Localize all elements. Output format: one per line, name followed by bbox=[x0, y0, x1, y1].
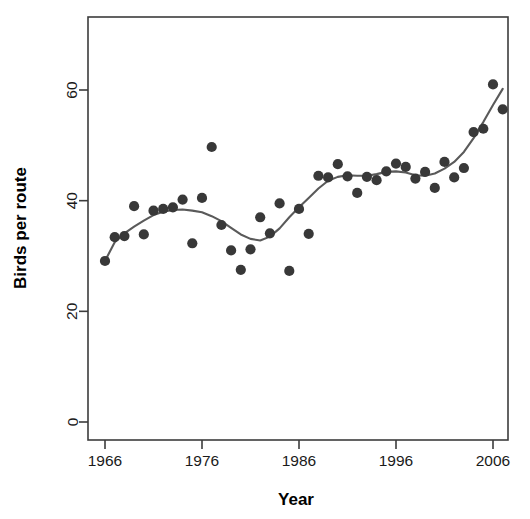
data-point bbox=[139, 229, 149, 239]
data-point bbox=[439, 157, 449, 167]
data-point bbox=[294, 204, 304, 214]
data-point bbox=[304, 229, 314, 239]
data-point bbox=[178, 194, 188, 204]
x-tick-label: 2006 bbox=[476, 452, 510, 469]
x-tick-label: 1966 bbox=[88, 452, 122, 469]
data-point bbox=[372, 175, 382, 185]
data-point bbox=[226, 245, 236, 255]
data-point bbox=[275, 198, 285, 208]
x-tick-label: 1986 bbox=[282, 452, 316, 469]
chart-container: 0204060 19661976198619962006 Birds per r… bbox=[0, 0, 530, 519]
y-tick-label: 60 bbox=[64, 81, 81, 99]
data-point bbox=[313, 171, 323, 181]
x-axis-title: Year bbox=[278, 490, 314, 509]
data-point bbox=[352, 188, 362, 198]
data-point bbox=[342, 171, 352, 181]
plot-background bbox=[0, 0, 530, 519]
data-point bbox=[187, 238, 197, 248]
data-point bbox=[469, 127, 479, 137]
data-point bbox=[129, 201, 139, 211]
data-point bbox=[478, 124, 488, 134]
y-tick-label: 20 bbox=[64, 302, 81, 320]
x-tick-label: 1976 bbox=[185, 452, 219, 469]
data-point bbox=[110, 232, 120, 242]
data-point bbox=[265, 228, 275, 238]
data-point bbox=[362, 172, 372, 182]
data-point bbox=[236, 265, 246, 275]
data-point bbox=[420, 167, 430, 177]
data-point bbox=[119, 231, 129, 241]
data-point bbox=[245, 244, 255, 254]
data-point bbox=[488, 79, 498, 89]
data-point bbox=[333, 159, 343, 169]
data-point bbox=[323, 172, 333, 182]
y-tick-label: 40 bbox=[64, 192, 81, 210]
x-tick-label: 1996 bbox=[379, 452, 413, 469]
data-point bbox=[498, 104, 508, 114]
data-point bbox=[207, 142, 217, 152]
data-point bbox=[168, 202, 178, 212]
data-point bbox=[148, 206, 158, 216]
data-point bbox=[381, 166, 391, 176]
data-point bbox=[216, 220, 226, 230]
data-point bbox=[449, 172, 459, 182]
y-axis-title: Birds per route bbox=[11, 167, 30, 289]
data-point bbox=[391, 158, 401, 168]
data-point bbox=[430, 183, 440, 193]
data-point bbox=[158, 204, 168, 214]
data-point bbox=[410, 173, 420, 183]
data-point bbox=[100, 256, 110, 266]
scatter-plot-svg: 0204060 19661976198619962006 Birds per r… bbox=[0, 0, 530, 519]
data-point bbox=[284, 266, 294, 276]
data-point bbox=[255, 212, 265, 222]
y-tick-label: 0 bbox=[64, 417, 81, 426]
data-point bbox=[197, 193, 207, 203]
data-point bbox=[459, 163, 469, 173]
data-point bbox=[401, 162, 411, 172]
